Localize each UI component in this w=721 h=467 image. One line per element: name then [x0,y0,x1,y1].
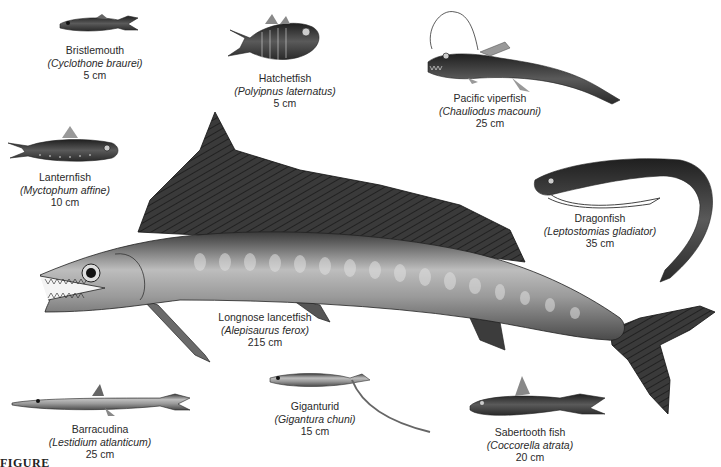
hatchetfish-illustration [228,14,319,60]
scientific-name: (Lestidium atlanticum) [30,436,170,449]
common-name: Hatchetfish [215,72,355,85]
scientific-name: (Myctophum affine) [5,184,125,197]
size: 5 cm [35,69,155,82]
common-name: Dragonfish [530,212,670,225]
size: 25 cm [420,117,560,130]
barracudina-illustration [12,384,190,416]
label-longnose-lancetfish: Longnose lancetfish (Alepisaurus ferox) … [200,311,330,349]
size: 15 cm [255,425,375,438]
size: 25 cm [30,448,170,461]
scientific-name: (Coccorella atrata) [465,439,595,452]
sabertooth-illustration [470,376,605,415]
size: 5 cm [215,97,355,110]
label-dragonfish: Dragonfish (Leptostomias gladiator) 35 c… [530,212,670,250]
scientific-name: (Cyclothone braurei) [35,57,155,70]
label-barracudina: Barracudina (Lestidium atlanticum) 25 cm [30,423,170,461]
common-name: Bristlemouth [35,44,155,57]
label-sabertooth-fish: Sabertooth fish (Coccorella atrata) 20 c… [465,426,595,464]
common-name: Longnose lancetfish [200,311,330,324]
figure-caption: FIGURE [0,456,50,467]
common-name: Lanternfish [5,171,125,184]
lanternfish-illustration [8,126,118,161]
common-name: Sabertooth fish [465,426,595,439]
common-name: Pacific viperfish [420,92,560,105]
label-lanternfish: Lanternfish (Myctophum affine) 10 cm [5,171,125,209]
scientific-name: (Polyipnus laternatus) [215,85,355,98]
label-bristlemouth: Bristlemouth (Cyclothone braurei) 5 cm [35,44,155,82]
size: 20 cm [465,451,595,464]
pacific-viperfish-illustration [428,12,620,104]
bristlemouth-illustration [60,14,138,31]
common-name: Giganturid [255,400,375,413]
scientific-name: (Chauliodus macouni) [420,105,560,118]
scientific-name: (Alepisaurus ferox) [200,324,330,337]
label-giganturid: Giganturid (Gigantura chuni) 15 cm [255,400,375,438]
size: 215 cm [200,336,330,349]
common-name: Barracudina [30,423,170,436]
scientific-name: (Leptostomias gladiator) [530,225,670,238]
label-pacific-viperfish: Pacific viperfish (Chauliodus macouni) 2… [420,92,560,130]
scientific-name: (Gigantura chuni) [255,413,375,426]
size: 10 cm [5,196,125,209]
size: 35 cm [530,237,670,250]
label-hatchetfish: Hatchetfish (Polyipnus laternatus) 5 cm [215,72,355,110]
lancetfish-illustration [40,112,715,414]
